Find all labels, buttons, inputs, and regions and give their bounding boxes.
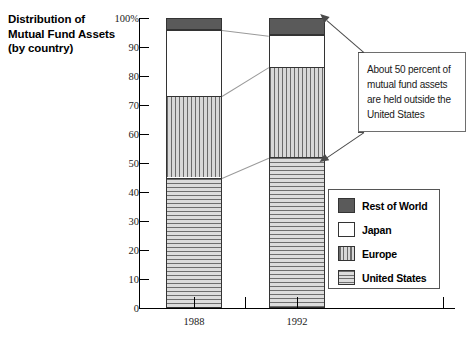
connector-united-states bbox=[222, 157, 269, 178]
y-tick-mark bbox=[140, 47, 149, 48]
legend-swatch-japan-icon bbox=[338, 222, 355, 237]
y-tick-mark bbox=[140, 163, 149, 164]
legend-swatch-europe-icon bbox=[338, 246, 355, 261]
y-tick-mark bbox=[140, 134, 149, 135]
y-tick-mark bbox=[140, 105, 149, 106]
y-tick-label: 10 bbox=[101, 274, 139, 285]
leader-line-top bbox=[327, 20, 365, 53]
x-axis-line bbox=[139, 308, 455, 309]
y-tick-mark bbox=[140, 192, 149, 193]
y-tick-label: 100% bbox=[101, 13, 139, 24]
y-tick-label: 70 bbox=[101, 100, 139, 111]
connector-europe bbox=[222, 67, 269, 97]
x-tick-1988 bbox=[194, 297, 195, 308]
y-tick-mark bbox=[140, 250, 149, 251]
y-tick-mark bbox=[140, 221, 149, 222]
y-tick-label: 60 bbox=[101, 129, 139, 140]
x-tick-right bbox=[443, 297, 444, 308]
legend: Rest of World Japan Europe United States bbox=[328, 189, 440, 289]
bar-segment-1988-japan bbox=[167, 30, 221, 97]
legend-item-rest-of-world: Rest of World bbox=[338, 198, 427, 213]
bar-segment-1992-rest-of-world bbox=[270, 18, 324, 35]
x-label-1988: 1988 bbox=[159, 316, 229, 327]
annotation-callout: About 50 percent of mutual fund assets a… bbox=[358, 52, 466, 132]
legend-item-japan: Japan bbox=[338, 222, 391, 237]
y-tick-mark bbox=[140, 18, 149, 19]
x-tick-1992 bbox=[297, 297, 298, 308]
legend-swatch-united-states-icon bbox=[338, 270, 355, 285]
annotation-text: About 50 percent of mutual fund assets a… bbox=[367, 62, 461, 122]
x-label-1992: 1992 bbox=[262, 316, 332, 327]
legend-label-united-states: United States bbox=[362, 272, 427, 284]
y-tick-label: 90 bbox=[101, 42, 139, 53]
legend-label-europe: Europe bbox=[362, 248, 397, 260]
bar-1988 bbox=[166, 18, 222, 308]
legend-item-united-states: United States bbox=[338, 270, 427, 285]
y-tick-label: 0 bbox=[101, 303, 139, 314]
bar-segment-1992-united-states bbox=[270, 157, 324, 308]
bar-segment-1988-united-states bbox=[167, 178, 221, 309]
y-tick-label: 80 bbox=[101, 71, 139, 82]
y-tick-label: 20 bbox=[101, 245, 139, 256]
legend-label-rest-of-world: Rest of World bbox=[362, 200, 427, 212]
connector-japan bbox=[222, 30, 269, 37]
bar-segment-1988-europe bbox=[167, 96, 221, 177]
y-tick-mark bbox=[140, 76, 149, 77]
y-tick-label: 40 bbox=[101, 187, 139, 198]
leader-line-bottom bbox=[327, 132, 365, 158]
y-tick-label: 30 bbox=[101, 216, 139, 227]
bar-segment-1992-europe bbox=[270, 67, 324, 157]
bar-segment-1988-rest-of-world bbox=[167, 18, 221, 30]
bar-segment-1992-japan bbox=[270, 35, 324, 67]
legend-item-europe: Europe bbox=[338, 246, 397, 261]
bar-1992 bbox=[269, 18, 325, 308]
title-line-2: Mutual Fund Assets bbox=[8, 27, 128, 42]
y-tick-label: 50 bbox=[101, 158, 139, 169]
legend-label-japan: Japan bbox=[362, 224, 391, 236]
x-tick-mid bbox=[245, 297, 246, 308]
legend-swatch-rest-of-world-icon bbox=[338, 198, 355, 213]
chart-figure: Distribution of Mutual Fund Assets (by c… bbox=[0, 0, 473, 346]
y-tick-mark bbox=[140, 279, 149, 280]
